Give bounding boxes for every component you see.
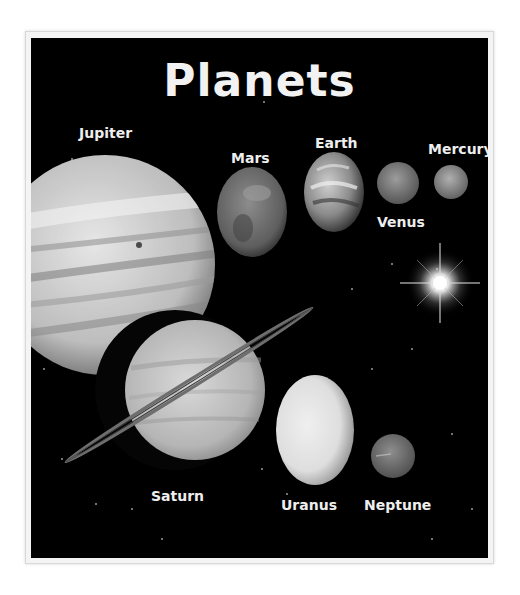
planet-earth bbox=[304, 152, 364, 232]
planet-mars bbox=[217, 167, 287, 257]
label-jupiter: Jupiter bbox=[79, 125, 132, 141]
planet-neptune bbox=[371, 434, 415, 478]
label-mercury: Mercury bbox=[428, 141, 488, 157]
planet-venus bbox=[377, 162, 419, 204]
planet-uranus bbox=[276, 375, 354, 485]
label-uranus: Uranus bbox=[281, 497, 337, 513]
label-venus: Venus bbox=[377, 214, 425, 230]
planet-mercury bbox=[434, 165, 468, 199]
planet-illustrations bbox=[31, 38, 488, 558]
label-saturn: Saturn bbox=[151, 488, 204, 504]
label-mars: Mars bbox=[231, 150, 270, 166]
sun-star-icon bbox=[400, 243, 480, 323]
planets-poster: Planets bbox=[31, 38, 488, 558]
label-neptune: Neptune bbox=[364, 497, 431, 513]
label-earth: Earth bbox=[315, 135, 358, 151]
